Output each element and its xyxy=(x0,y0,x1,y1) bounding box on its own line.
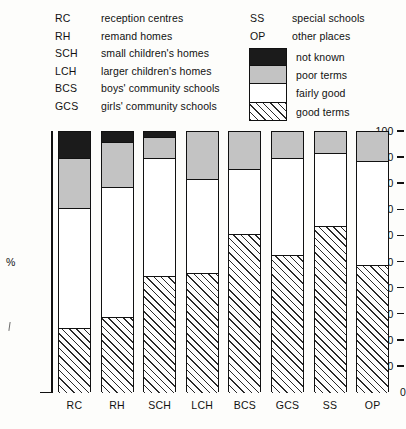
stacked-bar[interactable] xyxy=(228,131,261,392)
legend-label: good terms xyxy=(296,106,350,118)
stacked-bar[interactable] xyxy=(101,131,134,392)
abbreviation-text: boys' community schools xyxy=(101,82,220,94)
abbreviation-text: reception centres xyxy=(101,12,183,24)
bar-segment-poor-terms xyxy=(229,132,260,169)
legend: not known poor terms fairly good good te… xyxy=(249,48,289,121)
stacked-bar[interactable] xyxy=(58,131,91,392)
chart-key: RC reception centres RH remand homes SCH… xyxy=(0,0,406,128)
bar-slot: SS xyxy=(314,131,347,392)
bar-segment-fairly-good xyxy=(357,161,388,265)
bar-segment-fairly-good xyxy=(229,169,260,234)
bar-segment-fairly-good xyxy=(272,158,303,255)
bar-segment-poor-terms xyxy=(144,137,175,158)
bar-segment-poor-terms xyxy=(357,132,388,161)
legend-swatch-good-terms-icon xyxy=(249,103,287,121)
list-item: LCH larger children's homes xyxy=(55,65,220,83)
abbreviation-code: BCS xyxy=(55,82,101,94)
bar-segment-good-terms xyxy=(272,255,303,393)
bar-segment-good-terms xyxy=(144,276,175,393)
list-item: SS special schools xyxy=(250,12,365,30)
legend-label: fairly good xyxy=(296,87,346,99)
bar-segment-good-terms xyxy=(187,273,218,393)
legend-swatch-poor-terms-icon xyxy=(249,66,287,84)
bar-segment-good-terms xyxy=(315,226,346,393)
bar-slot: OP xyxy=(356,131,389,392)
abbreviation-list-right: SS special schools OP other places xyxy=(250,12,365,47)
bar-segment-poor-terms xyxy=(59,158,90,208)
stacked-bar[interactable] xyxy=(186,131,219,392)
abbreviation-code: SS xyxy=(250,12,292,24)
abbreviation-text: small children's homes xyxy=(101,47,209,59)
abbreviation-code: LCH xyxy=(55,65,101,77)
x-axis-label-gcs: GCS xyxy=(271,399,304,411)
abbreviation-code: OP xyxy=(250,30,292,42)
x-axis-label-lch: LCH xyxy=(186,399,219,411)
bar-segment-fairly-good xyxy=(102,187,133,318)
legend-swatch-fairly-good-icon xyxy=(249,84,287,102)
list-item: RH remand homes xyxy=(55,30,220,48)
bar-group: RCRHSCHLCHBCSGCSSSOP xyxy=(58,131,402,392)
list-item: GCS girls' community schools xyxy=(55,100,220,118)
bar-segment-poor-terms xyxy=(187,132,218,179)
stacked-bar-chart: % 1009080706050403020100 RCRHSCHLCHBCSGC… xyxy=(0,126,406,429)
bar-slot: RC xyxy=(58,131,91,392)
bar-slot: SCH xyxy=(143,131,176,392)
bar-slot: GCS xyxy=(271,131,304,392)
bar-slot: RH xyxy=(101,131,134,392)
abbreviation-text: special schools xyxy=(292,12,365,24)
bar-segment-fairly-good xyxy=(187,179,218,273)
bar-segment-good-terms xyxy=(357,265,388,393)
legend-swatch-not-known-icon xyxy=(249,48,287,66)
legend-item: fairly good xyxy=(249,84,289,102)
x-axis-label-rh: RH xyxy=(101,399,134,411)
bar-slot: LCH xyxy=(186,131,219,392)
stacked-bar[interactable] xyxy=(356,131,389,392)
legend-item: poor terms xyxy=(249,66,289,84)
bar-segment-not-known xyxy=(102,132,133,142)
abbreviation-text: other places xyxy=(292,30,350,42)
abbreviation-list-left: RC reception centres RH remand homes SCH… xyxy=(55,12,220,117)
bar-segment-good-terms xyxy=(229,234,260,393)
bar-slot: BCS xyxy=(228,131,261,392)
abbreviation-text: girls' community schools xyxy=(101,100,217,112)
abbreviation-text: larger children's homes xyxy=(101,65,212,77)
y-axis-zero-tick xyxy=(40,392,52,394)
stacked-bar[interactable] xyxy=(143,131,176,392)
x-axis-label-rc: RC xyxy=(58,399,91,411)
stacked-bar[interactable] xyxy=(314,131,347,392)
bar-segment-good-terms xyxy=(102,317,133,393)
x-axis-label-bcs: BCS xyxy=(228,399,261,411)
x-axis-label-ss: SS xyxy=(314,399,347,411)
legend-label: poor terms xyxy=(296,69,347,81)
bar-segment-not-known xyxy=(59,132,90,158)
legend-item: good terms xyxy=(249,103,289,121)
x-axis-label-sch: SCH xyxy=(143,399,176,411)
abbreviation-code: RC xyxy=(55,12,101,24)
abbreviation-code: GCS xyxy=(55,100,101,112)
stacked-bar[interactable] xyxy=(271,131,304,392)
x-axis-label-op: OP xyxy=(356,399,389,411)
bar-segment-poor-terms xyxy=(272,132,303,158)
abbreviation-code: SCH xyxy=(55,47,101,59)
bar-segment-fairly-good xyxy=(144,158,175,275)
bar-segment-poor-terms xyxy=(102,142,133,186)
bar-segment-fairly-good xyxy=(315,153,346,226)
stray-mark xyxy=(8,322,11,331)
bar-segment-fairly-good xyxy=(59,208,90,328)
abbreviation-code: RH xyxy=(55,30,101,42)
list-item: OP other places xyxy=(250,30,365,48)
y-axis-line xyxy=(51,131,53,393)
list-item: SCH small children's homes xyxy=(55,47,220,65)
y-axis-unit-label: % xyxy=(6,256,15,268)
bar-segment-good-terms xyxy=(59,328,90,393)
legend-item: not known xyxy=(249,48,289,66)
legend-label: not known xyxy=(296,51,345,63)
abbreviation-text: remand homes xyxy=(101,30,172,42)
bar-segment-poor-terms xyxy=(315,132,346,153)
list-item: RC reception centres xyxy=(55,12,220,30)
list-item: BCS boys' community schools xyxy=(55,82,220,100)
